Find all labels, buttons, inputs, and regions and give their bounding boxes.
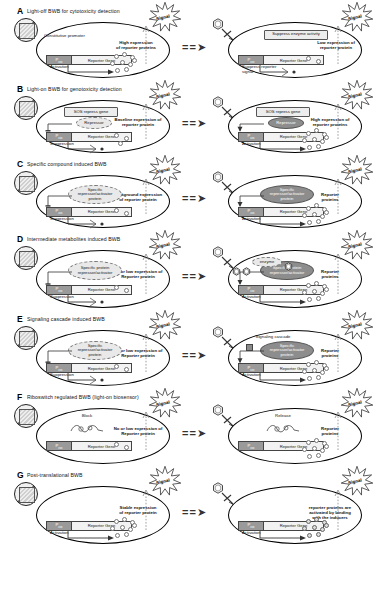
panel-D: DIntermediate metabolites induced BWB= =… bbox=[0, 232, 392, 312]
reporter-protein-dot bbox=[115, 533, 120, 538]
reporter-protein-dot bbox=[114, 285, 119, 290]
riboswitch-state-left: Block bbox=[66, 414, 108, 419]
stage-left-E: SignalPxxxReporter GeneSuppressionNo or … bbox=[14, 312, 189, 390]
reporter-protein-cluster-left bbox=[14, 279, 154, 305]
reporter-protein-dot bbox=[128, 527, 133, 532]
reporter-protein-dot bbox=[314, 517, 319, 522]
reporter-protein-dot bbox=[302, 213, 307, 218]
reporter-protein-dot bbox=[306, 131, 311, 136]
reporter-protein-dot bbox=[306, 283, 311, 288]
reporter-protein-dot bbox=[316, 532, 321, 537]
reporter-protein-cluster-left bbox=[14, 358, 154, 384]
reporter-protein-dot bbox=[307, 533, 312, 538]
panel-E: ESignaling cascade induced BWB= = ➤Signa… bbox=[0, 312, 392, 390]
reporter-protein-dot bbox=[118, 141, 123, 146]
stage-left-F: SignalPxxxReporter GeneNo or low express… bbox=[14, 390, 189, 468]
reporter-protein-dot bbox=[320, 527, 325, 532]
panel-C: CSpecific compound induced BWB= = ➤Signa… bbox=[0, 157, 392, 232]
panel-F: FRiboswitch regulated BWB (light-on bios… bbox=[0, 390, 392, 468]
reporter-protein-dot bbox=[124, 211, 129, 216]
metabolite-hexagon-2 bbox=[242, 267, 253, 278]
reporter-protein-dot bbox=[314, 438, 319, 443]
reporter-protein-dot bbox=[314, 281, 319, 286]
stage-right-B: SignalPxxxReporter GeneActivationHigh ex… bbox=[206, 82, 381, 157]
panel-G: GPost-translational BWB= = ➤SignalPxxxRe… bbox=[0, 468, 392, 548]
riboswitch-rna-icon bbox=[70, 422, 104, 434]
reporter-protein-dot bbox=[132, 58, 137, 63]
reporter-protein-dot bbox=[316, 296, 321, 301]
reporter-protein-dot bbox=[122, 52, 127, 57]
reporter-protein-dot bbox=[307, 376, 312, 381]
stage-right-G: SignalPxxxReporter GeneActivationreporte… bbox=[206, 468, 381, 548]
stage-right-F: SignalPxxxReporter GeneReporterproteinsR… bbox=[206, 390, 381, 468]
process-box-left: SOS repress gene bbox=[64, 107, 118, 117]
reporter-protein-cluster-right bbox=[206, 279, 346, 305]
reporter-protein-dot bbox=[324, 135, 329, 140]
hatched-square-icon bbox=[19, 331, 35, 347]
reporter-protein-dot bbox=[324, 444, 329, 449]
hatched-square-icon bbox=[19, 251, 35, 267]
stage-left-A: SignalPxxxReporter GeneActivationHigh ex… bbox=[14, 4, 189, 82]
reporter-protein-dot bbox=[320, 448, 325, 453]
process-box-right: SOS repress gene bbox=[256, 107, 310, 117]
riboswitch-rna-icon bbox=[266, 422, 300, 434]
reporter-protein-dot bbox=[302, 290, 307, 295]
hatched-square-icon bbox=[19, 487, 35, 503]
reporter-protein-dot bbox=[324, 287, 329, 292]
reporter-protein-dot bbox=[306, 56, 311, 61]
reporter-protein-dot bbox=[124, 367, 129, 372]
reporter-protein-dot bbox=[110, 526, 115, 531]
reporter-protein-dot bbox=[120, 525, 125, 530]
reporter-protein-dot bbox=[114, 442, 119, 447]
reporter-protein-cluster-right bbox=[206, 436, 346, 462]
stage-left-D: SignalPxxxReporter GeneSuppressionNo or … bbox=[14, 232, 189, 312]
reporter-protein-cluster-right bbox=[206, 515, 346, 541]
reporter-protein-dot bbox=[316, 59, 321, 64]
reporter-protein-dot bbox=[302, 138, 307, 143]
reporter-protein-dot bbox=[302, 369, 307, 374]
reporter-protein-dot bbox=[312, 289, 317, 294]
reporter-protein-dot bbox=[122, 517, 127, 522]
no-inducer-icon bbox=[14, 18, 38, 42]
hatched-square-icon bbox=[19, 101, 35, 117]
reporter-protein-cluster-left bbox=[14, 515, 154, 541]
stage-left-C: SignalPxxxReporter GeneSuppressionbackgr… bbox=[14, 157, 189, 232]
reporter-protein-cluster-right bbox=[206, 127, 346, 153]
reporter-protein-dot bbox=[306, 440, 311, 445]
cascade-node-icon bbox=[246, 344, 253, 351]
stage-right-C: SignalPxxxReporter GeneActivationReporte… bbox=[206, 157, 381, 232]
hatched-square-icon bbox=[19, 23, 35, 39]
stage-right-A: SignalPxxxReporter GeneSuppress reporter… bbox=[206, 4, 381, 82]
reporter-protein-dot bbox=[114, 133, 119, 138]
reporter-protein-dot bbox=[124, 136, 129, 141]
reporter-protein-dot bbox=[320, 291, 325, 296]
regulator-protein-left: Specificrepressor/activatorprotein bbox=[68, 341, 122, 360]
reporter-protein-dot bbox=[314, 360, 319, 365]
reporter-protein-cluster-left bbox=[14, 202, 154, 228]
reporter-protein-cluster-right bbox=[206, 202, 346, 228]
reporter-protein-cluster-left bbox=[14, 50, 154, 76]
no-inducer-icon bbox=[14, 96, 38, 120]
riboswitch-state-right: Release bbox=[262, 414, 304, 419]
reporter-protein-dot bbox=[306, 362, 311, 367]
reporter-protein-dot bbox=[124, 67, 129, 72]
panel-A: ALight-off BWB for cytotoxicity detectio… bbox=[0, 4, 392, 82]
reporter-protein-dot bbox=[306, 206, 311, 211]
reporter-protein-dot bbox=[312, 368, 317, 373]
reporter-protein-dot bbox=[302, 447, 307, 452]
reporter-protein-dot bbox=[114, 519, 119, 524]
reporter-protein-dot bbox=[124, 445, 129, 450]
reporter-protein-dot bbox=[316, 453, 321, 458]
stage-right-D: SignalPxxxReporter GeneActivationReporte… bbox=[206, 232, 381, 312]
reporter-protein-dot bbox=[306, 519, 311, 524]
stage-right-E: SignalPxxxReporter GeneActivationReporte… bbox=[206, 312, 381, 390]
no-inducer-icon bbox=[14, 246, 38, 270]
stage-left-G: SignalPxxxReporter GeneActivationStable … bbox=[14, 468, 189, 548]
reporter-protein-dot bbox=[312, 137, 317, 142]
reporter-protein-dot bbox=[302, 526, 307, 531]
metabolite-hexagon-3 bbox=[284, 262, 295, 273]
reporter-protein-dot bbox=[324, 523, 329, 528]
stage-left-B: SignalPxxxReporter GeneSuppressionBaseli… bbox=[14, 82, 189, 157]
reporter-protein-cluster-right bbox=[206, 358, 346, 384]
promoter-note: Constitutive promoter bbox=[44, 34, 106, 39]
